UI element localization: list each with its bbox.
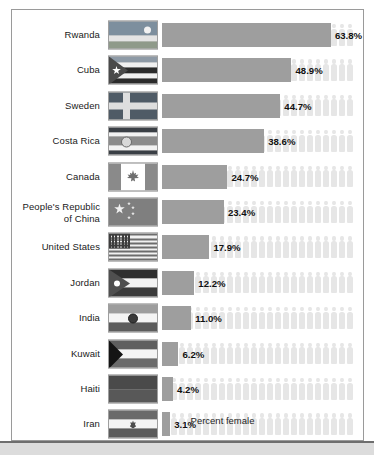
country-label-line: Costa Rica xyxy=(11,135,100,147)
bar-value-label: 38.6% xyxy=(268,136,295,147)
chart-row: Haiti4.2% xyxy=(12,374,363,404)
chart-row: Costa Rica38.6% xyxy=(12,126,363,156)
bar-value-label: 44.7% xyxy=(284,100,311,111)
flag-usa-icon xyxy=(108,233,158,262)
bar-value-label: 48.9% xyxy=(295,65,322,76)
chart-row: United States17.9% xyxy=(12,232,363,262)
country-label-line: Cuba xyxy=(11,65,100,77)
bar-value-label: 24.7% xyxy=(231,171,258,182)
bar-value-label: 23.4% xyxy=(228,207,255,218)
screenshot-page: Rwanda63.8%Cuba48.9%Sweden44.7%Costa Ric… xyxy=(0,0,374,455)
bar-value-label: 63.8% xyxy=(335,30,362,41)
flag-jordan-icon xyxy=(108,268,158,297)
value-bar xyxy=(162,129,264,153)
country-label: Jordan xyxy=(11,277,100,289)
chart-row: People's Republicof China23.4% xyxy=(12,197,363,227)
country-label: India xyxy=(11,312,100,324)
page-bottom-band xyxy=(0,443,374,455)
chart-row: Kuwait6.2% xyxy=(12,339,363,369)
chart-row: Rwanda63.8% xyxy=(12,20,363,50)
country-label-line: Jordan xyxy=(11,277,100,289)
country-label: Costa Rica xyxy=(11,135,100,147)
value-bar xyxy=(162,58,291,82)
value-bar xyxy=(162,23,331,47)
chart-row: Cuba48.9% xyxy=(12,55,363,85)
bar-value-label: 12.2% xyxy=(198,277,225,288)
flag-rwanda-icon xyxy=(108,21,158,50)
flag-costa-rica-icon xyxy=(108,127,158,156)
country-label: Sweden xyxy=(11,100,100,112)
flag-china-icon xyxy=(108,198,158,227)
country-label: Canada xyxy=(11,171,100,183)
bar-value-label: 17.9% xyxy=(213,242,240,253)
country-label-line: Haiti xyxy=(11,383,100,395)
value-bar xyxy=(162,271,194,295)
chart-figure: Rwanda63.8%Cuba48.9%Sweden44.7%Costa Ric… xyxy=(11,9,364,441)
value-bar xyxy=(162,306,191,330)
country-label-line: Sweden xyxy=(11,100,100,112)
chart-row: Sweden44.7% xyxy=(12,91,363,121)
chart-row: Jordan12.2% xyxy=(12,268,363,298)
flag-cuba-icon xyxy=(108,56,158,85)
value-bar xyxy=(162,94,280,118)
flag-sweden-icon xyxy=(108,91,158,120)
bar-value-label: 4.2% xyxy=(177,384,199,395)
chart-row: India11.0% xyxy=(12,303,363,333)
flag-india-icon xyxy=(108,304,158,333)
bar-value-label: 11.0% xyxy=(195,313,222,324)
value-bar xyxy=(162,200,224,224)
value-bar xyxy=(162,165,227,189)
country-label: People's Republicof China xyxy=(11,201,100,224)
country-label: Haiti xyxy=(11,383,100,395)
country-label: Cuba xyxy=(11,65,100,77)
value-bar xyxy=(162,342,178,366)
country-label-line: Rwanda xyxy=(11,29,100,41)
country-label-line: of China xyxy=(11,212,100,224)
value-bar xyxy=(162,377,173,401)
country-label-line: Kuwait xyxy=(11,348,100,360)
x-axis-caption: Percent female xyxy=(12,415,363,426)
flag-canada-icon xyxy=(108,162,158,191)
country-label-line: Canada xyxy=(11,171,100,183)
country-label-line: People's Republic xyxy=(11,201,100,213)
country-label-line: India xyxy=(11,312,100,324)
value-bar xyxy=(162,235,209,259)
chart-row: Canada24.7% xyxy=(12,162,363,192)
flag-haiti-icon xyxy=(108,375,158,404)
country-label-line: United States xyxy=(11,242,100,254)
country-label: Rwanda xyxy=(11,29,100,41)
country-label: Kuwait xyxy=(11,348,100,360)
country-label: United States xyxy=(11,242,100,254)
flag-kuwait-icon xyxy=(108,339,158,368)
bar-value-label: 6.2% xyxy=(182,348,204,359)
